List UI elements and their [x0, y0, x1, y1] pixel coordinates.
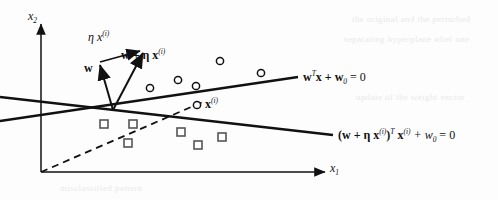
w-vector-label: w [84, 62, 93, 74]
circle-marker [192, 82, 199, 89]
x-axis-label: x1 [330, 162, 339, 177]
w-vector-arrow [100, 65, 113, 110]
w-plus-eta-x-vector-label: w + η x(i) [121, 48, 165, 61]
y-axis-label: x2 [28, 10, 37, 25]
square-marker [100, 120, 108, 128]
sample-point-marker [193, 101, 200, 108]
square-marker [218, 133, 226, 141]
eta-x-vector-label: η x(i) [88, 30, 109, 43]
circle-marker [174, 76, 181, 83]
circle-marker [146, 84, 153, 91]
new-decision-boundary-line [0, 97, 333, 135]
square-marker-group [100, 120, 226, 149]
perceptron-update-figure: the original and the perturbed separatin… [0, 0, 498, 200]
square-marker [129, 120, 137, 128]
square-marker [124, 139, 132, 147]
figure-canvas [0, 0, 498, 200]
square-marker [177, 128, 185, 136]
circle-marker [257, 69, 264, 76]
axis-group [41, 24, 325, 172]
circle-marker [216, 57, 223, 64]
new-boundary-equation-label: (w + η x(i))T x(i) + w0 = 0 [338, 128, 455, 144]
square-marker [194, 141, 202, 149]
old-boundary-equation-label: wTx + w0 = 0 [303, 70, 366, 86]
sample-point-label: x(i) [205, 97, 218, 110]
